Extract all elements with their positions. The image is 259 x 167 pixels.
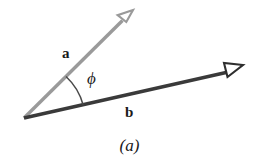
vector-b-label: b <box>125 105 133 120</box>
vector-a-label: a <box>62 46 70 61</box>
vector-angle-figure: a b ϕ (a) <box>0 0 259 167</box>
vector-b-arrowhead-icon <box>224 63 243 77</box>
angle-arc <box>66 77 83 105</box>
vector-a-shaft <box>24 21 123 119</box>
angle-phi-label: ϕ <box>87 70 96 87</box>
figure-caption: (a) <box>0 136 259 156</box>
vector-a-arrowhead-icon <box>118 10 133 22</box>
